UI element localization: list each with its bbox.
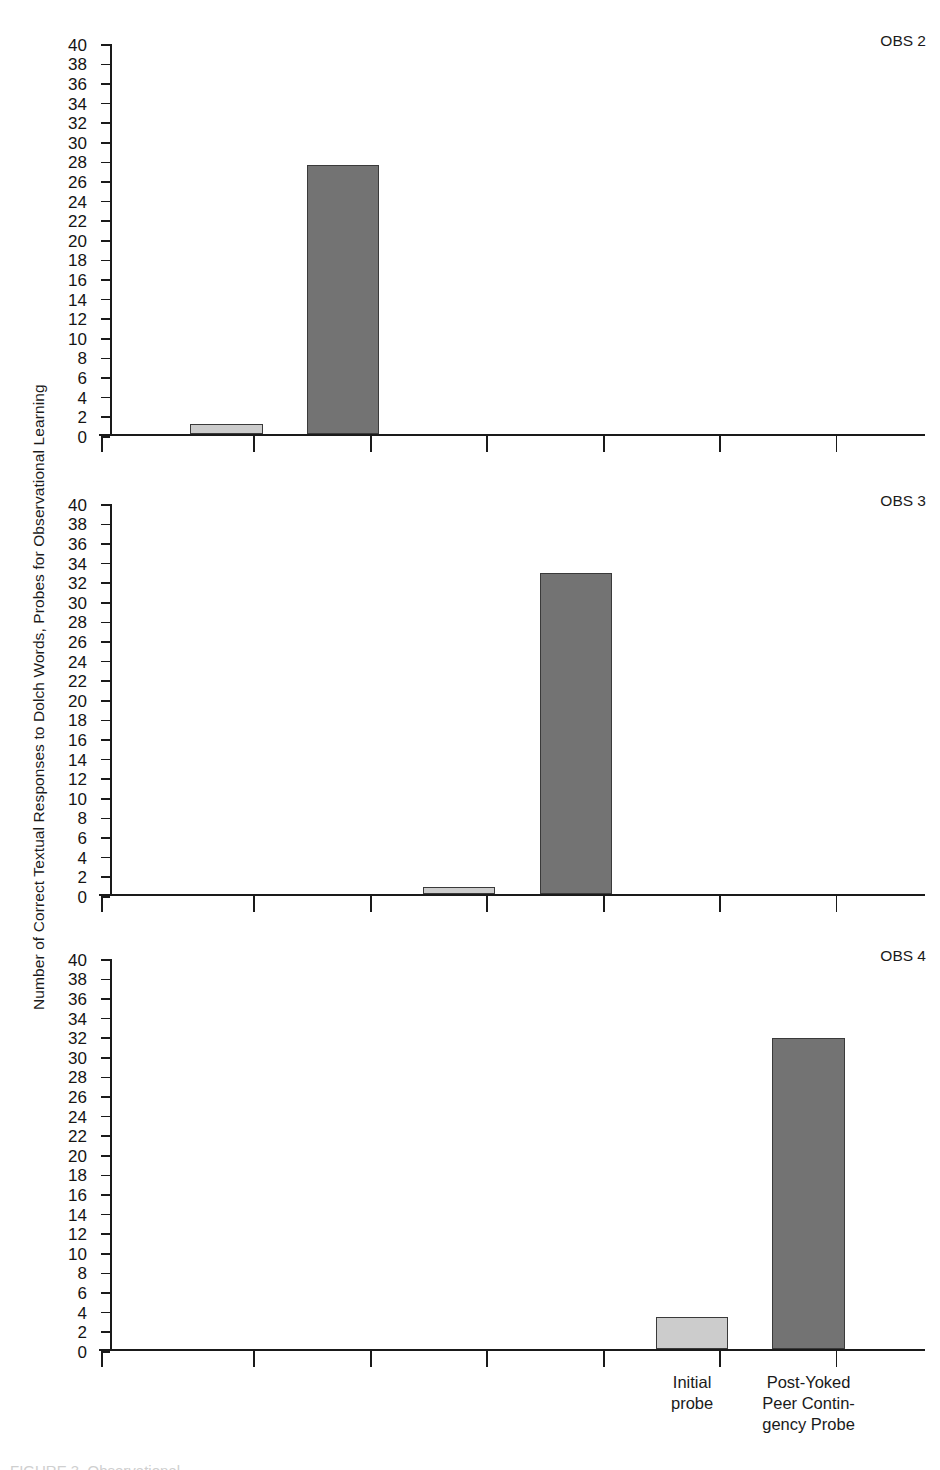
y-axis-tick: 4 (101, 1312, 110, 1314)
plot-area-obs-3: 0246810121416182022242628303234363840 (110, 504, 925, 896)
x-axis-category-labels: InitialprobePost-YokedPeer Contin-gency … (44, 1372, 940, 1468)
x-axis-tick (253, 896, 255, 912)
y-axis-tick-label: 2 (78, 869, 87, 886)
y-axis-tick: 28 (101, 1077, 110, 1079)
y-axis-tick-label: 22 (68, 1128, 87, 1145)
x-axis-tick (253, 436, 255, 452)
x-axis-tick (486, 436, 488, 452)
x-axis-category-label: Post-YokedPeer Contin-gency Probe (749, 1372, 868, 1435)
x-axis-category-label: Initialprobe (633, 1372, 752, 1414)
bar-dark (772, 1038, 844, 1349)
y-axis-tick: 6 (101, 377, 110, 379)
x-axis-tick (603, 1351, 605, 1367)
x-axis-category-label-line: gency Probe (749, 1414, 868, 1435)
y-axis-tick-label: 24 (68, 193, 87, 210)
y-axis-tick-label: 32 (68, 1030, 87, 1047)
y-axis-tick-label: 20 (68, 692, 87, 709)
y-axis-tick-label: 22 (68, 213, 87, 230)
y-axis-tick-label: 38 (68, 516, 87, 533)
y-axis-tick-label: 12 (68, 311, 87, 328)
y-axis-tick-label: 28 (68, 614, 87, 631)
y-axis-tick-label: 24 (68, 653, 87, 670)
y-axis-tick-label: 8 (78, 350, 87, 367)
x-axis-category-label-line: Post-Yoked (749, 1372, 868, 1393)
y-axis-tick-label: 28 (68, 154, 87, 171)
y-axis-line (110, 959, 112, 1351)
y-axis-tick-label: 0 (78, 888, 87, 905)
y-axis-tick: 2 (101, 1331, 110, 1333)
y-axis-tick: 40 (101, 44, 110, 46)
y-axis-tick-label: 16 (68, 1186, 87, 1203)
y-axis-tick: 10 (101, 338, 110, 340)
y-axis-tick: 20 (101, 1155, 110, 1157)
y-axis-tick: 12 (101, 318, 110, 320)
y-axis-tick-label: 30 (68, 1049, 87, 1066)
y-axis-tick-label: 40 (68, 36, 87, 53)
y-axis-tick-label: 24 (68, 1108, 87, 1125)
y-axis-tick: 18 (101, 720, 110, 722)
y-axis-tick-label: 34 (68, 95, 87, 112)
y-axis-tick-label: 30 (68, 594, 87, 611)
y-axis-tick: 26 (101, 641, 110, 643)
bar-light (656, 1317, 728, 1349)
y-axis-tick: 24 (101, 1116, 110, 1118)
y-axis-tick-label: 2 (78, 409, 87, 426)
y-axis-tick-label: 36 (68, 990, 87, 1007)
y-axis-tick-label: 18 (68, 1167, 87, 1184)
x-axis-category-label-line: Peer Contin- (749, 1393, 868, 1414)
x-axis-tick (486, 1351, 488, 1367)
y-axis-tick: 16 (101, 739, 110, 741)
y-axis-tick-label: 8 (78, 810, 87, 827)
y-axis-tick: 2 (101, 876, 110, 878)
y-axis-tick: 28 (101, 162, 110, 164)
x-axis-tick (603, 436, 605, 452)
y-axis-tick: 12 (101, 1233, 110, 1235)
y-axis-tick: 24 (101, 201, 110, 203)
y-axis-tick: 32 (101, 582, 110, 584)
y-axis-tick: 30 (101, 142, 110, 144)
y-axis-tick: 20 (101, 700, 110, 702)
y-axis-tick-label: 38 (68, 56, 87, 73)
y-axis-tick-label: 6 (78, 829, 87, 846)
x-axis-category-label-line: probe (633, 1393, 752, 1414)
y-axis-tick-label: 26 (68, 633, 87, 650)
y-axis-tick: 26 (101, 181, 110, 183)
panel-obs-4: OBS 4 0246810121416182022242628303234363… (44, 945, 940, 1365)
y-axis-tick: 32 (101, 1037, 110, 1039)
y-axis-tick-label: 36 (68, 75, 87, 92)
y-axis-title-container: Number of Correct Textual Responses to D… (0, 0, 44, 1320)
x-axis-tick (101, 1351, 103, 1367)
x-axis-tick (719, 436, 721, 452)
y-axis-tick: 34 (101, 103, 110, 105)
x-axis-tick (370, 436, 372, 452)
y-axis-tick-label: 8 (78, 1265, 87, 1282)
x-axis-tick (836, 896, 838, 912)
y-axis-tick-label: 26 (68, 1088, 87, 1105)
y-axis-tick-label: 14 (68, 1206, 87, 1223)
y-axis-tick-label: 6 (78, 1284, 87, 1301)
y-axis-tick: 4 (101, 857, 110, 859)
y-axis-tick: 32 (101, 122, 110, 124)
y-axis-tick-label: 32 (68, 115, 87, 132)
x-axis-tick (101, 436, 103, 452)
y-axis-tick: 40 (101, 959, 110, 961)
x-axis-line (99, 434, 925, 436)
y-axis-tick: 26 (101, 1096, 110, 1098)
y-axis-tick-label: 2 (78, 1324, 87, 1341)
x-axis-tick (719, 896, 721, 912)
y-axis-tick-label: 16 (68, 271, 87, 288)
y-axis-tick-label: 4 (78, 389, 87, 406)
y-axis-tick-label: 14 (68, 751, 87, 768)
y-axis-tick-label: 30 (68, 134, 87, 151)
y-axis-tick-label: 4 (78, 1304, 87, 1321)
x-axis-tick (101, 896, 103, 912)
y-axis-line (110, 44, 112, 436)
bar-dark (307, 165, 379, 434)
y-axis-tick: 38 (101, 524, 110, 526)
y-axis-tick-label: 16 (68, 731, 87, 748)
y-axis-tick-label: 18 (68, 252, 87, 269)
y-axis-tick: 38 (101, 979, 110, 981)
y-axis-tick: 36 (101, 83, 110, 85)
y-axis-tick: 12 (101, 778, 110, 780)
y-axis-tick-label: 28 (68, 1069, 87, 1086)
